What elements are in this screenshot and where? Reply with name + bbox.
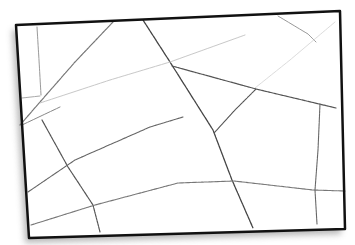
sketch-canvas <box>0 0 355 245</box>
paper-sheet <box>16 11 345 238</box>
